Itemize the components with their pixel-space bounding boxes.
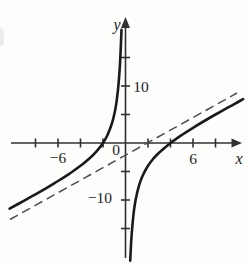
y-tick-label-10: 10 xyxy=(133,79,149,95)
curve-branch-left xyxy=(10,30,122,209)
curve-branch-right xyxy=(130,99,243,260)
x-tick-label-neg6: −6 xyxy=(50,150,67,166)
x-axis-label: x xyxy=(235,151,242,167)
y-tick-label-neg10: −10 xyxy=(88,190,112,206)
x-axis-arrow-icon xyxy=(232,139,243,148)
plot-canvas xyxy=(0,0,247,264)
function-graph-figure: y x 0 −6 6 10 −10 xyxy=(0,0,247,264)
origin-label: 0 xyxy=(112,142,120,158)
x-tick-label-6: 6 xyxy=(189,151,197,167)
y-axis-label: y xyxy=(113,17,120,33)
y-axis-arrow-icon xyxy=(121,17,130,28)
